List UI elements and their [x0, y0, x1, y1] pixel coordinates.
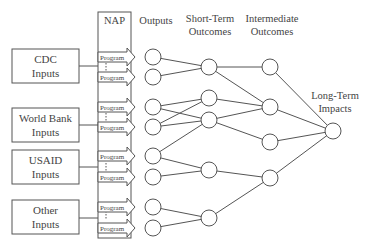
edge: [270, 131, 333, 142]
edge: [209, 178, 270, 218]
edge: [153, 120, 209, 156]
header-nap: NAP: [104, 15, 125, 26]
edge: [209, 67, 270, 107]
input-usaid-line2: Inputs: [32, 168, 60, 180]
input-other-line1: Other: [33, 204, 58, 216]
header-short-term-line1: Short-Term: [186, 13, 234, 24]
intermediate-node: [262, 59, 278, 75]
edge: [209, 120, 270, 142]
program-label: Program: [100, 225, 125, 233]
header-long-term-line2: Impacts: [318, 103, 351, 114]
input-world-bank-line2: Inputs: [32, 126, 60, 138]
edge: [270, 131, 333, 178]
input-other-line2: Inputs: [32, 218, 60, 230]
long-term-node: [325, 123, 341, 139]
output-node: [145, 119, 161, 135]
program-label: Program: [100, 174, 125, 182]
program-label: Program: [100, 153, 125, 161]
header-intermediate-line2: Outcomes: [251, 26, 294, 37]
short-term-node: [201, 112, 217, 128]
edge: [153, 67, 209, 77]
header-long-term-line1: Long-Term: [311, 90, 359, 101]
intermediate-node: [262, 170, 278, 186]
input-world-bank-line1: World Bank: [19, 112, 73, 124]
edge: [153, 156, 209, 170]
intermediate-node: [262, 99, 278, 115]
intermediate-node: [262, 134, 278, 150]
short-term-node: [201, 162, 217, 178]
edge: [153, 218, 209, 228]
edge: [209, 170, 270, 178]
short-term-node: [201, 210, 217, 226]
output-node: [145, 169, 161, 185]
edge: [153, 207, 209, 218]
output-node: [145, 199, 161, 215]
input-usaid-line1: USAID: [29, 154, 63, 166]
edge: [153, 107, 209, 120]
header-short-term-line2: Outcomes: [189, 26, 232, 37]
short-term-node: [201, 90, 217, 106]
output-node: [145, 49, 161, 65]
logic-model-diagram: NAP Outputs Short-Term Outcomes Intermed…: [0, 0, 366, 252]
program-label: Program: [100, 204, 125, 212]
program-label: Program: [100, 74, 125, 82]
program-label: Program: [100, 104, 125, 112]
edge: [209, 107, 270, 120]
output-node: [145, 220, 161, 236]
edge: [153, 57, 209, 67]
program-label: Program: [100, 54, 125, 62]
input-cdc-line2: Inputs: [32, 67, 60, 79]
short-term-node: [201, 59, 217, 75]
header-outputs: Outputs: [139, 15, 172, 26]
edge: [209, 98, 270, 107]
header-intermediate-line1: Intermediate: [245, 13, 298, 24]
program-label: Program: [100, 124, 125, 132]
output-node: [145, 99, 161, 115]
output-node: [145, 69, 161, 85]
output-node: [145, 148, 161, 164]
input-cdc-line1: CDC: [34, 53, 57, 65]
